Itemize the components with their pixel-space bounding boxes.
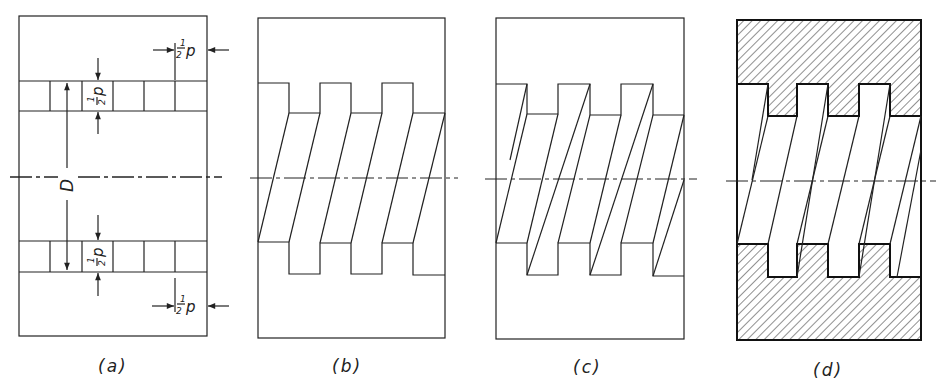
half-pitch-depth-lower: 1 2 p — [86, 247, 107, 266]
half-pitch-top: 1 2 p — [176, 38, 196, 60]
panel-label-d: (d) — [813, 360, 843, 380]
panel-a-frame — [19, 16, 207, 336]
svg-text:2: 2 — [176, 306, 182, 316]
svg-text:2: 2 — [97, 260, 107, 266]
svg-text:1: 1 — [86, 257, 96, 263]
svg-text:p: p — [185, 42, 196, 60]
svg-text:1: 1 — [180, 38, 186, 48]
panel-a: D 1 2 p 1 2 p 1 2 p — [0, 0, 229, 336]
half-pitch-bottom: 1 2 p — [176, 294, 196, 316]
half-pitch-depth-upper: 1 2 p — [86, 86, 107, 105]
panel-b — [250, 18, 458, 338]
svg-text:2: 2 — [176, 50, 182, 60]
svg-text:p: p — [89, 86, 107, 97]
thread-drawing-canvas: D 1 2 p 1 2 p 1 2 p — [0, 0, 937, 389]
panel-c — [485, 18, 697, 339]
panel-label-b: (b) — [332, 356, 362, 376]
svg-text:1: 1 — [180, 294, 186, 304]
panel-label-a: (a) — [98, 356, 128, 376]
svg-text:2: 2 — [97, 99, 107, 105]
svg-text:p: p — [185, 298, 196, 316]
panel-d — [726, 20, 936, 340]
panel-label-c: (c) — [573, 357, 602, 377]
svg-text:p: p — [89, 247, 107, 258]
svg-text:1: 1 — [86, 96, 96, 102]
diameter-label: D — [57, 179, 77, 192]
